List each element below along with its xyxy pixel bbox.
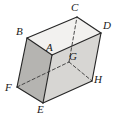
vertex-label-B: B xyxy=(16,26,23,37)
geometry-figure-container: A B C D E F G H xyxy=(0,0,116,123)
vertex-label-G: G xyxy=(69,51,77,62)
vertex-label-E: E xyxy=(37,104,44,115)
vertex-label-C: C xyxy=(71,2,78,13)
vertex-label-A: A xyxy=(46,42,53,53)
vertex-label-F: F xyxy=(5,82,12,93)
vertex-label-H: H xyxy=(94,74,102,85)
cuboid-diagram-svg xyxy=(0,0,116,123)
vertex-label-D: D xyxy=(103,20,111,31)
